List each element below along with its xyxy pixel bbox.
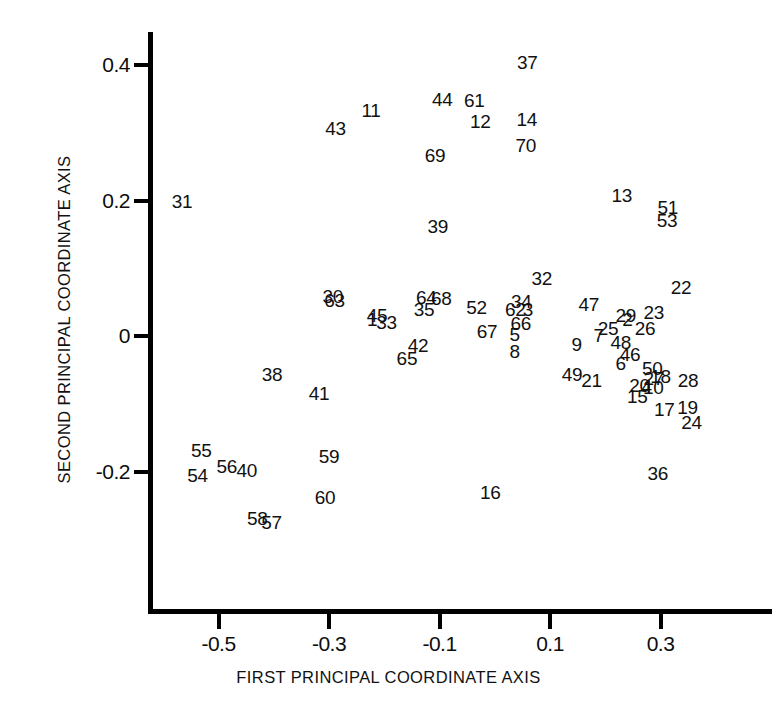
- data-point-label: 14: [517, 110, 538, 129]
- data-point-label: 38: [262, 364, 283, 383]
- data-point-label: 39: [428, 216, 449, 235]
- y-tick-mark: [134, 334, 149, 338]
- y-tick-label: 0.4: [70, 53, 130, 77]
- data-point-label: 49: [562, 365, 583, 384]
- data-point-label: 63: [324, 291, 345, 310]
- data-point-label: 17: [654, 399, 675, 418]
- data-point-label: 36: [647, 464, 668, 483]
- data-point-label: 53: [657, 210, 678, 229]
- x-axis-title: FIRST PRINCIPAL COORDINATE AXIS: [0, 668, 777, 687]
- data-point-label: 16: [480, 482, 501, 501]
- x-tick-mark: [659, 614, 663, 629]
- y-axis-title: SECOND PRINCIPAL COORDINATE AXIS: [55, 40, 74, 600]
- data-point-label: 56: [217, 456, 238, 475]
- x-tick-label: -0.5: [179, 632, 259, 656]
- data-point-label: 67: [477, 321, 498, 340]
- x-tick-mark: [327, 614, 331, 629]
- x-tick-mark: [438, 614, 442, 629]
- y-tick-label: 0.2: [70, 189, 130, 213]
- x-tick-mark: [217, 614, 221, 629]
- data-point-label: 13: [612, 185, 633, 204]
- data-point-label: 2: [622, 309, 632, 328]
- x-tick-label: -0.3: [289, 632, 369, 656]
- data-point-label: 69: [425, 146, 446, 165]
- data-point-label: 43: [325, 119, 346, 138]
- data-point-label: 12: [470, 111, 491, 130]
- data-point-label: 21: [581, 370, 602, 389]
- data-point-label: 47: [578, 295, 599, 314]
- data-point-label: 24: [681, 412, 702, 431]
- data-point-label: 35: [414, 299, 435, 318]
- y-tick-mark: [134, 470, 149, 474]
- data-point-label: 41: [309, 384, 330, 403]
- data-point-label: 70: [515, 136, 536, 155]
- data-point-label: 8: [509, 341, 519, 360]
- y-tick-label: -0.2: [70, 460, 130, 484]
- x-tick-label: -0.1: [400, 632, 480, 656]
- data-point-label: 37: [517, 53, 538, 72]
- data-point-label: 61: [464, 91, 485, 110]
- data-point-label: 44: [432, 89, 453, 108]
- data-point-label: 7: [593, 325, 603, 344]
- data-point-label: 54: [187, 465, 208, 484]
- data-point-label: 57: [261, 513, 282, 532]
- data-point-label: 40: [236, 460, 257, 479]
- data-point-label: 55: [191, 440, 212, 459]
- data-point-label: 11: [361, 101, 380, 120]
- data-point-label: 9: [571, 334, 581, 353]
- data-point-label: 26: [635, 318, 656, 337]
- data-point-label: 65: [397, 349, 418, 368]
- x-tick-mark: [548, 614, 552, 629]
- data-point-label: 28: [678, 371, 699, 390]
- data-point-label: 32: [531, 268, 552, 287]
- data-point-label: 15: [627, 387, 648, 406]
- x-tick-label: 0.1: [510, 632, 590, 656]
- y-tick-mark: [134, 199, 149, 203]
- y-tick-mark: [134, 63, 149, 67]
- data-point-label: 59: [319, 447, 340, 466]
- data-point-label: 52: [466, 298, 487, 317]
- y-axis-line: [148, 32, 153, 614]
- x-axis-line: [148, 609, 772, 614]
- scatter-plot-figure: 0.40.20-0.2 -0.5-0.3-0.10.10.3 374461111…: [0, 0, 777, 716]
- data-point-label: 60: [315, 488, 336, 507]
- data-point-label: 6: [616, 354, 626, 373]
- data-point-label: 33: [376, 313, 397, 332]
- data-point-label: 22: [671, 277, 692, 296]
- x-tick-label: 0.3: [621, 632, 701, 656]
- data-point-label: 31: [172, 192, 193, 211]
- y-tick-label: 0: [70, 324, 130, 348]
